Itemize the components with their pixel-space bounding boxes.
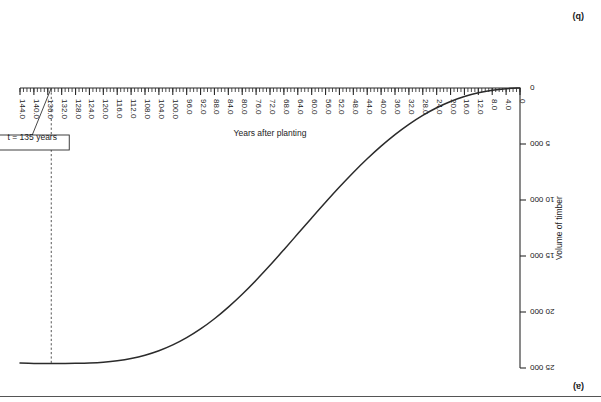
x-tick-label: 100.0	[171, 99, 180, 120]
y-tick-label: 10 000	[529, 195, 554, 204]
x-tick-label: 56.0	[324, 99, 333, 115]
figure-page: (a) (b) 04.08.012.016.020.024.028.032.03…	[0, 0, 601, 402]
x-tick-label: 68.0	[282, 99, 291, 115]
x-tick-label: 124.0	[87, 99, 96, 120]
x-axis-title: Years after planting	[234, 128, 307, 138]
x-tick-label: 72.0	[268, 99, 277, 115]
x-tick-label: 60.0	[310, 99, 319, 115]
x-axis-major-ticks	[20, 88, 520, 95]
y-axis-tick-labels: 05 00010 00015 00020 00025 000	[529, 83, 554, 372]
x-tick-label: 132.0	[60, 99, 69, 120]
x-tick-label: 8.0	[490, 99, 499, 111]
x-tick-label: 40.0	[379, 99, 388, 115]
callout-label: t = 135 years	[8, 132, 57, 142]
x-tick-label: 0	[518, 99, 527, 104]
x-tick-label: 32.0	[407, 99, 416, 115]
x-tick-label: 84.0	[226, 99, 235, 115]
y-tick-label: 20 000	[529, 307, 554, 316]
y-axis-title: Volume of timber	[554, 196, 564, 260]
x-tick-label: 4.0	[504, 99, 513, 111]
x-tick-label: 144.0	[18, 99, 27, 120]
timber-volume-line-chart: 04.08.012.016.020.024.028.032.036.040.04…	[0, 0, 601, 402]
x-tick-label: 52.0	[337, 99, 346, 115]
x-tick-label: 96.0	[185, 99, 194, 115]
page-bottom-rule	[0, 396, 601, 397]
y-tick-label: 25 000	[529, 363, 554, 372]
y-tick-label: 5 000	[529, 139, 550, 148]
x-tick-label: 16.0	[462, 99, 471, 115]
x-tick-label: 128.0	[74, 99, 83, 120]
x-tick-label: 108.0	[143, 99, 152, 120]
x-tick-label: 136.0	[46, 99, 55, 120]
y-tick-label: 15 000	[529, 251, 554, 260]
x-tick-label: 12.0	[476, 99, 485, 115]
x-tick-label: 80.0	[240, 99, 249, 115]
x-tick-label: 104.0	[157, 99, 166, 120]
x-tick-label: 76.0	[254, 99, 263, 115]
x-tick-label: 44.0	[365, 99, 374, 115]
x-tick-label: 92.0	[199, 99, 208, 115]
x-tick-label: 112.0	[129, 99, 138, 119]
x-tick-label: 116.0	[115, 99, 124, 119]
rotated-figure-container: (a) (b) 04.08.012.016.020.024.028.032.03…	[0, 0, 601, 402]
x-tick-label: 120.0	[101, 99, 110, 120]
y-tick-label: 0	[529, 83, 534, 92]
x-tick-label: 36.0	[393, 99, 402, 115]
x-tick-label: 48.0	[351, 99, 360, 115]
x-tick-label: 88.0	[212, 99, 221, 115]
x-tick-label: 64.0	[296, 99, 305, 115]
y-axis-major-ticks	[520, 144, 526, 368]
